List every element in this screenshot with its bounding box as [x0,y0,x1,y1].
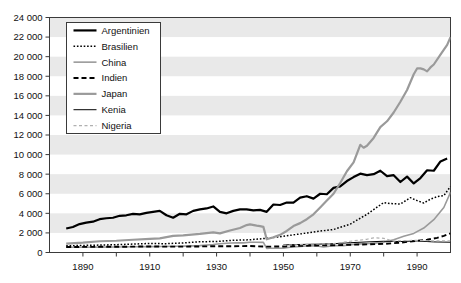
background-band [50,174,451,194]
y-axis-label: 8 000 [19,169,43,180]
x-axis-label: 1890 [72,261,93,272]
chart-container: 02 0004 0006 0008 00010 00012 00014 0001… [0,0,461,283]
y-axis-label: 0 [37,247,42,258]
y-axis-label: 24 000 [13,12,42,23]
y-axis-label: 20 000 [13,51,42,62]
background-band [50,135,451,155]
legend-label-nigeria: Nigeria [102,120,133,131]
legend-label-brasilien: Brasilien [102,41,138,52]
legend-label-argentinien: Argentinien [102,25,150,36]
legend-label-japan: Japan [102,88,128,99]
y-axis-label: 22 000 [13,31,42,42]
y-axis-label: 4 000 [19,208,43,219]
x-axis-label: 1930 [206,261,227,272]
legend-label-kenia: Kenia [102,104,127,115]
legend-label-china: China [102,57,128,68]
y-axis-label: 18 000 [13,71,42,82]
legend-label-indien: Indien [102,72,128,83]
line-chart: 02 0004 0006 0008 00010 00012 00014 0001… [0,0,461,283]
y-axis-label: 16 000 [13,90,42,101]
background-band [50,213,451,233]
y-axis-label: 2 000 [19,227,43,238]
x-axis-label: 1990 [407,261,428,272]
x-axis-label: 1910 [139,261,160,272]
y-axis-label: 10 000 [13,149,42,160]
y-axis-label: 14 000 [13,110,42,121]
x-axis-label: 1950 [273,261,294,272]
y-axis-label: 6 000 [19,188,43,199]
x-axis-label: 1970 [340,261,361,272]
y-axis-label: 12 000 [13,129,42,140]
